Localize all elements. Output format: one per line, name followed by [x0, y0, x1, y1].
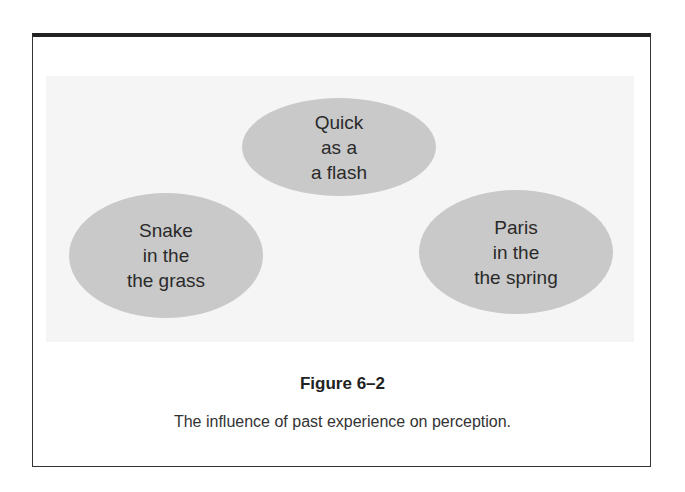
ellipse-line: in the [143, 243, 189, 268]
ellipse-line: Quick [315, 110, 364, 135]
ellipse-snake-in-the-grass: Snake in the the grass [69, 193, 263, 318]
ellipse-line: Paris [494, 215, 537, 240]
ellipse-line: in the [493, 240, 539, 265]
ellipse-paris-in-the-spring: Paris in the the spring [419, 190, 613, 314]
ellipse-line: as a [321, 135, 357, 160]
figure-caption: The influence of past experience on perc… [0, 413, 685, 431]
ellipse-line: the spring [474, 265, 557, 290]
ellipse-line: Snake [139, 218, 193, 243]
ellipse-quick-as-a-flash: Quick as a a flash [242, 98, 436, 196]
ellipse-line: the grass [127, 268, 205, 293]
figure-title: Figure 6–2 [0, 374, 685, 394]
ellipse-line: a flash [311, 160, 367, 185]
